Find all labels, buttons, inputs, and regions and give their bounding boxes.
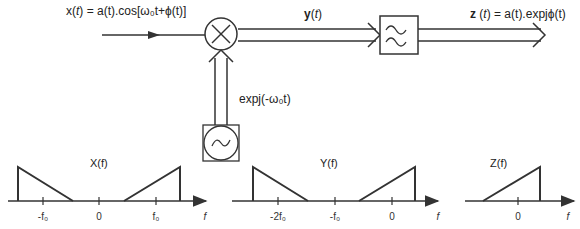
oscillator-icon [203, 125, 239, 161]
axis-label: f [204, 211, 207, 222]
tick-label: f₀ [153, 211, 160, 222]
tick-label: -2f₀ [270, 211, 286, 222]
lowpass-filter-icon [380, 16, 418, 54]
input-signal-arrow [102, 31, 205, 39]
oscillator-label: expj(-ω₀t) [239, 92, 291, 106]
spectrum-z-plot [465, 167, 574, 205]
axis-label: f [567, 211, 570, 222]
spectrum-x-title: X(f) [90, 156, 108, 170]
spectrum-y-title: Y(f) [320, 156, 338, 170]
block-diagram [0, 0, 580, 229]
tick-label: -f₀ [38, 211, 48, 222]
input-signal-label: x(t) = a(t).cos[ω₀t+ϕ(t)] [66, 4, 186, 18]
complex-signal-arrow-y [238, 23, 380, 47]
spectrum-x-plot [8, 167, 206, 205]
tick-label: 0 [515, 211, 521, 222]
tick-label: 0 [96, 211, 102, 222]
tick-label: 0 [389, 211, 395, 222]
multiplier-icon [205, 18, 237, 50]
axis-label: f [437, 211, 440, 222]
tick-label: -f₀ [330, 211, 340, 222]
mixer-output-label: y(t) [304, 7, 322, 21]
oscillator-signal-arrow [209, 50, 233, 125]
complex-signal-arrow-z [418, 23, 545, 47]
output-signal-label: z (t) = a(t).expjϕ(t) [470, 7, 566, 21]
spectrum-z-title: Z(f) [490, 156, 507, 170]
spectrum-y-plot [232, 167, 438, 205]
